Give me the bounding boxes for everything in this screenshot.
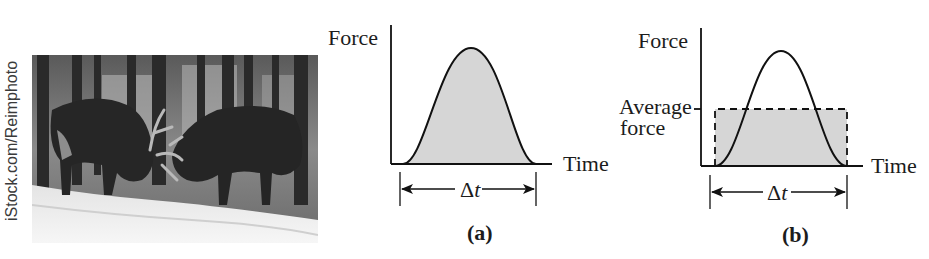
panel-caption-a: (a) [467, 222, 493, 244]
x-axis-label: Time [871, 155, 917, 177]
moose-photo-image [32, 55, 318, 243]
average-force-area [715, 109, 847, 166]
delta-t-label: Δt [765, 182, 789, 204]
delta-t-label: Δt [458, 179, 482, 201]
moose-photo [32, 55, 318, 243]
y-axis-label: Force [638, 30, 688, 52]
y-axis-label: Force [328, 27, 378, 49]
x-axis-label: Time [563, 153, 609, 175]
panel-caption-b: (b) [782, 224, 809, 246]
chart-a: Force Time Δt (a) [320, 0, 620, 259]
average-force-label-line2: force [620, 117, 665, 139]
photo-credit: iStock.com/Reimphoto [2, 71, 22, 221]
impulse-area [403, 48, 536, 164]
chart-b: Force Average force Time Δt (b) [620, 0, 929, 259]
